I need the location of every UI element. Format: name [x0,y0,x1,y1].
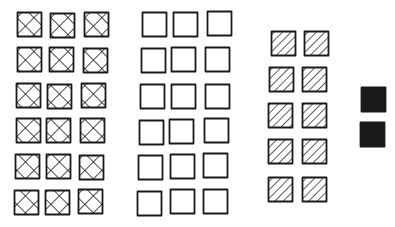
empty-square [174,13,198,37]
empty-square [142,49,166,73]
crosshatch-square [82,84,106,108]
crosshatch-square [17,84,41,108]
empty-square [204,190,228,214]
empty-square [172,85,196,109]
empty-square [206,85,230,109]
empty-squares-group [138,12,232,216]
crosshatch-square [15,191,39,215]
crosshatch-square [18,48,42,72]
empty-square [205,119,229,143]
diagonal-hatch-square [303,140,327,164]
diagonal-hatch-square [270,68,294,92]
crosshatch-square [80,156,104,180]
empty-square [206,48,230,72]
diagonal-hatch-square [269,178,293,202]
diagonal-hatch-square [303,178,327,202]
diagonal-hatch-square [269,104,293,128]
empty-square [171,155,195,179]
diagonal-hatch-square [303,104,327,128]
empty-square [138,192,162,216]
crosshatch-square [46,191,70,215]
crosshatch-square [51,14,75,38]
crosshatched-squares-group [15,13,109,215]
solid-square [362,88,386,112]
crosshatch-square [81,119,105,143]
empty-square [208,12,232,36]
crosshatch-square [17,119,41,143]
crosshatch-square [85,13,109,37]
solid-square [361,123,385,147]
diagonal-hatch-square [303,68,327,92]
diagonal-hatch-square [269,140,293,164]
empty-square [139,156,163,180]
crosshatch-square [84,49,108,73]
diagonal-hatch-square [272,32,296,56]
empty-square [170,120,194,144]
crosshatch-square [79,190,103,214]
hatched-squares-group [269,32,329,202]
squares-diagram [0,0,395,227]
solid-squares-group [361,88,386,147]
crosshatch-square [18,13,42,37]
empty-square [141,85,165,109]
crosshatch-square [50,48,74,72]
empty-square [172,48,196,72]
crosshatch-square [48,85,72,109]
empty-square [140,121,164,145]
crosshatch-square [47,119,71,143]
diagonal-hatch-square [305,32,329,56]
crosshatch-square [47,155,71,179]
crosshatch-square [16,155,40,179]
empty-square [204,154,228,178]
empty-square [171,190,195,214]
empty-square [143,13,167,37]
